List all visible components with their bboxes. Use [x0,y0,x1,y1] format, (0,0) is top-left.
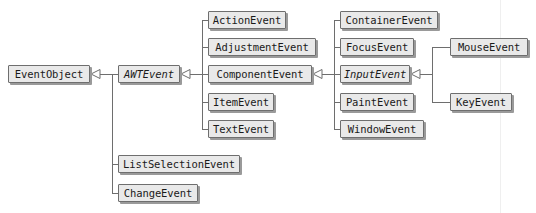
class-box-actionevent[interactable]: ActionEvent [208,11,286,29]
class-box-textevent[interactable]: TextEvent [208,120,274,138]
class-box-componentevent[interactable]: ComponentEvent [208,65,312,83]
class-box-windowevent[interactable]: WindowEvent [340,120,424,138]
class-box-awtevent[interactable]: AWTEvent [118,65,180,83]
class-box-eventobject[interactable]: EventObject [8,65,90,83]
class-box-mouseevent[interactable]: MouseEvent [450,38,528,56]
class-box-listselectionevent[interactable]: ListSelectionEvent [118,155,240,173]
class-box-inputevent[interactable]: InputEvent [340,65,410,83]
class-box-changeevent[interactable]: ChangeEvent [118,184,198,202]
class-box-focusevent[interactable]: FocusEvent [340,38,414,56]
class-box-itemevent[interactable]: ItemEvent [208,93,274,111]
class-box-containerevent[interactable]: ContainerEvent [340,11,438,29]
class-box-adjustmentevent[interactable]: AdjustmentEvent [208,38,316,56]
class-box-paintevent[interactable]: PaintEvent [340,93,414,111]
class-hierarchy-diagram: EventObject AWTEvent ListSelectionEvent … [0,0,536,213]
class-box-keyevent[interactable]: KeyEvent [450,93,512,111]
